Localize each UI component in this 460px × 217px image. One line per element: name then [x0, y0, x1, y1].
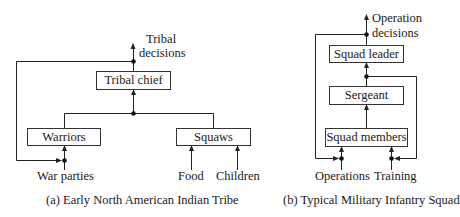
node-tribal-chief: Tribal chief — [96, 71, 171, 90]
node-squad-members: Squad members — [325, 128, 408, 147]
input-food: Food — [178, 169, 204, 183]
input-children: Children — [216, 169, 260, 183]
node-squaws: Squaws — [176, 128, 251, 146]
output-label-decisions: decisions — [372, 26, 419, 40]
input-war-parties: War parties — [37, 169, 94, 183]
input-operations: Operations — [315, 169, 370, 183]
node-sergeant: Sergeant — [329, 86, 404, 105]
caption-b: (b) Typical Military Infantry Squad — [283, 193, 460, 208]
output-label-tribal: Tribal — [146, 32, 176, 46]
node-warriors: Warriors — [27, 128, 101, 146]
node-squad-leader: Squad leader — [329, 45, 404, 63]
caption-a: (a) Early North American Indian Tribe — [46, 193, 239, 208]
output-label-decisions: decisions — [139, 46, 186, 60]
output-label-operation: Operation — [372, 11, 422, 25]
input-training: Training — [374, 169, 417, 183]
